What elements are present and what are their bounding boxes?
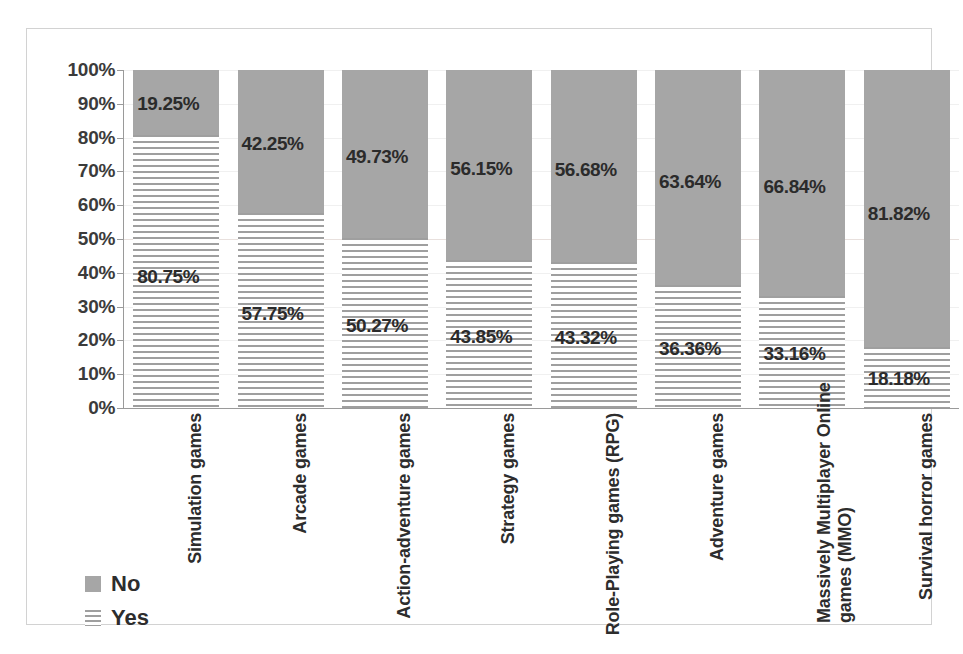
y-axis-tick-70 [117, 171, 123, 172]
y-axis-line [123, 70, 124, 409]
data-label-yes: 18.18% [868, 368, 963, 390]
y-axis-label-50: 50% [53, 228, 115, 250]
category-label-line: Role-Playing games (RPG) [603, 413, 623, 635]
y-axis-label-30: 30% [53, 296, 115, 318]
bar-series-group: 19.25%80.75%42.25%57.75%49.73%50.27%56.1… [124, 70, 959, 408]
data-label-no: 49.73% [346, 146, 466, 168]
category-label-line: games (MMO) [835, 413, 856, 623]
data-label-no: 56.68% [555, 159, 675, 181]
data-label-yes: 57.75% [242, 303, 362, 325]
y-axis-label-20: 20% [53, 329, 115, 351]
x-axis-category-label: Arcade games [290, 413, 311, 534]
x-axis-category-label: Survival horror games [916, 413, 937, 600]
chart-legend: NoYes [85, 567, 149, 635]
x-axis-category-label: Strategy games [498, 413, 519, 544]
y-axis-tick-80 [117, 138, 123, 139]
data-label-no: 42.25% [242, 133, 362, 155]
solid-gray-swatch [85, 576, 101, 592]
category-label-line: Massively Multiplayer Online [814, 383, 834, 624]
category-label-line: Action-adventure games [394, 413, 414, 619]
y-axis-label-100: 100% [53, 59, 115, 81]
y-axis-label-40: 40% [53, 262, 115, 284]
y-axis-label-70: 70% [53, 160, 115, 182]
bar-column[interactable]: 56.15%43.85% [446, 70, 532, 408]
bar-column[interactable]: 66.84%33.16% [759, 70, 845, 408]
bar-column[interactable]: 63.64%36.36% [655, 70, 741, 408]
data-label-yes: 43.85% [450, 326, 570, 348]
bar-column[interactable]: 19.25%80.75% [133, 70, 219, 408]
category-label-line: Strategy games [498, 413, 518, 544]
bar-column[interactable]: 49.73%50.27% [342, 70, 428, 408]
x-axis-category-label: Role-Playing games (RPG) [603, 413, 624, 635]
data-label-yes: 50.27% [346, 315, 466, 337]
data-label-no: 81.82% [868, 203, 963, 225]
legend-item-yes[interactable]: Yes [85, 601, 149, 635]
x-axis-category-label: Simulation games [185, 413, 206, 564]
x-axis-category-label: Adventure games [707, 413, 728, 561]
data-label-yes: 43.32% [555, 327, 675, 349]
y-axis-tick-60 [117, 205, 123, 206]
category-label-line: Survival horror games [916, 413, 936, 600]
y-axis-tick-50 [117, 239, 123, 240]
y-axis-tick-10 [117, 374, 123, 375]
y-axis-label-0: 0% [53, 397, 115, 419]
legend-item-no[interactable]: No [85, 567, 149, 601]
category-label-line: Arcade games [290, 413, 310, 534]
hatched-gray-swatch [85, 610, 101, 626]
y-axis-tick-20 [117, 340, 123, 341]
legend-label: No [111, 571, 140, 597]
data-label-no: 56.15% [450, 158, 570, 180]
x-axis-category-label: Massively Multiplayer Onlinegames (MMO) [814, 413, 856, 623]
y-axis-label-80: 80% [53, 127, 115, 149]
data-label-yes: 80.75% [137, 266, 257, 288]
bar-column[interactable]: 42.25%57.75% [238, 70, 324, 408]
category-label-line: Simulation games [185, 413, 205, 564]
y-axis-tick-40 [117, 273, 123, 274]
data-label-yes: 33.16% [763, 343, 883, 365]
y-axis-label-90: 90% [53, 93, 115, 115]
legend-label: Yes [111, 605, 149, 631]
y-axis-tick-30 [117, 307, 123, 308]
x-axis-category-labels: Simulation gamesArcade gamesAction-adven… [124, 413, 959, 613]
category-label-line: Adventure games [707, 413, 727, 561]
data-label-no: 63.64% [659, 171, 779, 193]
data-label-no: 19.25% [137, 93, 257, 115]
y-axis-label-10: 10% [53, 363, 115, 385]
data-label-yes: 36.36% [659, 338, 779, 360]
y-axis-tick-100 [117, 70, 123, 71]
chart-frame: 19.25%80.75%42.25%57.75%49.73%50.27%56.1… [26, 28, 932, 625]
bar-column[interactable]: 56.68%43.32% [551, 70, 637, 408]
y-axis-tick-90 [117, 104, 123, 105]
y-axis-tick-0 [117, 408, 123, 409]
data-label-no: 66.84% [763, 176, 883, 198]
y-axis-label-60: 60% [53, 194, 115, 216]
plot-area: 19.25%80.75%42.25%57.75%49.73%50.27%56.1… [124, 70, 959, 408]
x-axis-category-label: Action-adventure games [394, 413, 415, 619]
